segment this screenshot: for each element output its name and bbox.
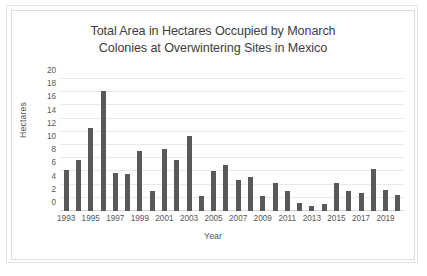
gridline — [60, 157, 404, 158]
gridline — [60, 170, 404, 171]
bar — [162, 149, 167, 211]
y-tick-label: 14 — [32, 107, 56, 115]
bar — [137, 151, 142, 211]
gridline — [60, 144, 404, 145]
gridline — [60, 104, 404, 105]
y-axis-tick-labels: 02468101214161820 — [32, 79, 56, 211]
bar — [248, 177, 253, 211]
bar — [88, 128, 93, 211]
bar — [273, 183, 278, 211]
x-tick-label: 2019 — [371, 214, 401, 224]
bar — [150, 191, 155, 211]
y-tick-label: 18 — [32, 80, 56, 88]
x-axis-title: Year — [12, 231, 414, 241]
bar — [187, 136, 192, 211]
y-tick-label: 4 — [32, 173, 56, 181]
chart-title-line-1: Total Area in Hectares Occupied by Monar… — [12, 23, 414, 40]
y-axis-title: Hectares — [18, 90, 28, 150]
bar — [359, 193, 364, 211]
bar — [334, 183, 339, 211]
bar — [309, 206, 314, 211]
y-tick-label: 20 — [32, 67, 56, 75]
gridline — [60, 210, 404, 211]
gridline — [60, 131, 404, 132]
x-axis-tick-labels: 1993199519971999200120032005200720092011… — [60, 214, 404, 226]
chart-title: Total Area in Hectares Occupied by Monar… — [12, 23, 414, 57]
bar — [101, 91, 106, 211]
gridline — [60, 118, 404, 119]
y-tick-label: 12 — [32, 120, 56, 128]
y-tick-label: 2 — [32, 186, 56, 194]
bar-chart-figure: Total Area in Hectares Occupied by Monar… — [12, 11, 414, 259]
plot-area — [60, 79, 404, 211]
y-tick-label: 16 — [32, 93, 56, 101]
bar — [76, 160, 81, 211]
bar — [113, 173, 118, 211]
gridline — [60, 78, 404, 79]
bar — [371, 169, 376, 211]
bar — [297, 203, 302, 211]
y-tick-label: 6 — [32, 159, 56, 167]
gridline — [60, 91, 404, 92]
y-tick-label: 0 — [32, 199, 56, 207]
bar — [236, 180, 241, 211]
chart-title-line-2: Colonies at Overwintering Sites in Mexic… — [12, 40, 414, 57]
bar — [199, 196, 204, 211]
y-tick-label: 10 — [32, 133, 56, 141]
bar — [260, 196, 265, 211]
bar — [174, 160, 179, 211]
bar — [322, 204, 327, 211]
bar — [125, 174, 130, 211]
bar — [383, 190, 388, 211]
bar — [285, 191, 290, 211]
bar — [211, 171, 216, 211]
bar — [395, 195, 400, 212]
bar — [223, 165, 228, 211]
bar — [64, 170, 69, 211]
bar — [346, 191, 351, 211]
y-tick-label: 8 — [32, 146, 56, 154]
gridline — [60, 184, 404, 185]
gridline — [60, 197, 404, 198]
